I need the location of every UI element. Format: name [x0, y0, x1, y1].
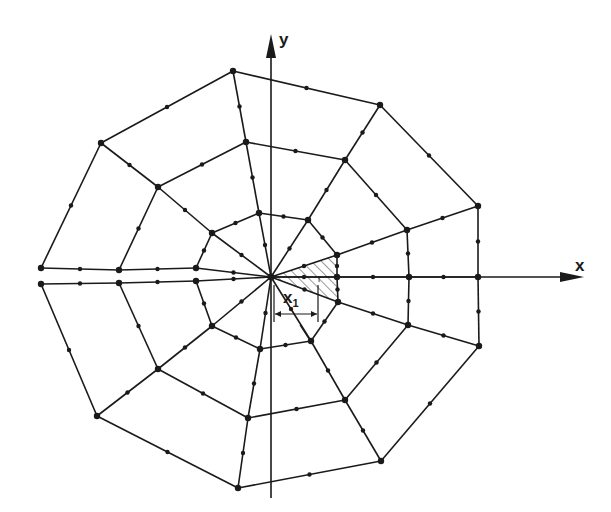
- mesh-lines: [41, 71, 479, 488]
- x1-dimension-label: x1: [283, 288, 299, 309]
- r-label: r: [318, 274, 321, 284]
- y-axis-arrow-icon: [266, 34, 276, 58]
- x-axis-label: x: [575, 256, 584, 276]
- y-axis-label: y: [279, 30, 288, 50]
- fe-mesh-diagram: [0, 0, 611, 512]
- mesh-nodes: [38, 68, 482, 491]
